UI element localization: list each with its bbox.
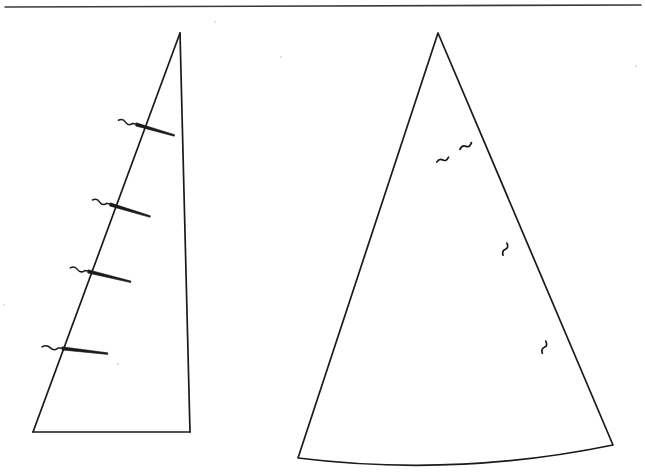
document-page [0,0,645,475]
wavy-stroke-2 [436,157,449,162]
wavy-mark-2 [436,157,449,162]
wavy-mark-4 [540,341,548,353]
notch-stub-4 [42,346,62,351]
wavy-mark-1 [459,143,472,150]
notch-stub-2 [92,199,110,206]
notch-mark-4 [42,346,108,355]
right-pattern-piece [298,33,613,465]
notch-tail-4 [62,347,108,355]
notch-mark-3 [70,267,132,283]
top-horizontal-rule [5,5,641,7]
drawing-canvas [0,0,645,475]
right-triangle-outline [298,33,613,465]
notch-stub-3 [70,267,88,274]
notch-tail-1 [135,123,175,136]
wavy-mark-3 [501,243,509,255]
notch-tail-3 [87,270,131,283]
left-pattern-piece [33,33,190,432]
wavy-stroke-4 [540,341,548,353]
rule-line [5,5,641,7]
wavy-stroke-1 [459,143,472,150]
right-wavy-marks [436,143,548,354]
left-diagonal-edge [33,33,180,432]
left-right-edge [180,33,190,432]
left-notch-marks [42,119,176,354]
wavy-stroke-3 [501,243,509,255]
notch-stub-1 [118,119,136,126]
notch-mark-1 [118,119,176,136]
notch-mark-2 [92,199,152,218]
